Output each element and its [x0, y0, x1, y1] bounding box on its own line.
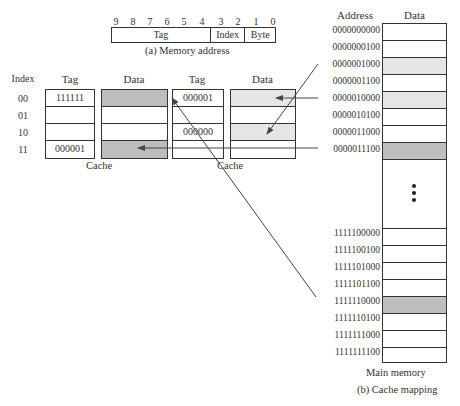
mapping-arrows — [0, 0, 460, 406]
arrow-0000001000-to-cache2-row10 — [267, 64, 318, 134]
arrow-1111110000-to-cache1-row00 — [172, 98, 316, 297]
